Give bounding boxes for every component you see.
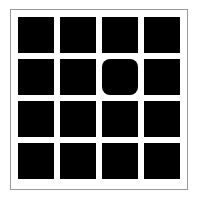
tile-square[interactable] (18, 101, 54, 137)
tile-square[interactable] (18, 59, 54, 95)
tile-square[interactable] (144, 59, 180, 95)
tile-square[interactable] (18, 17, 54, 53)
tile-rounded-square[interactable] (102, 59, 138, 95)
tile-square[interactable] (102, 101, 138, 137)
tile-square[interactable] (144, 101, 180, 137)
tile-square[interactable] (144, 143, 180, 179)
tile-square[interactable] (102, 143, 138, 179)
tile-square[interactable] (60, 143, 96, 179)
tile-square[interactable] (60, 101, 96, 137)
tile-square[interactable] (60, 17, 96, 53)
tile-grid (18, 17, 180, 179)
tile-square[interactable] (60, 59, 96, 95)
tile-square[interactable] (102, 17, 138, 53)
tile-square[interactable] (18, 143, 54, 179)
tile-square[interactable] (144, 17, 180, 53)
